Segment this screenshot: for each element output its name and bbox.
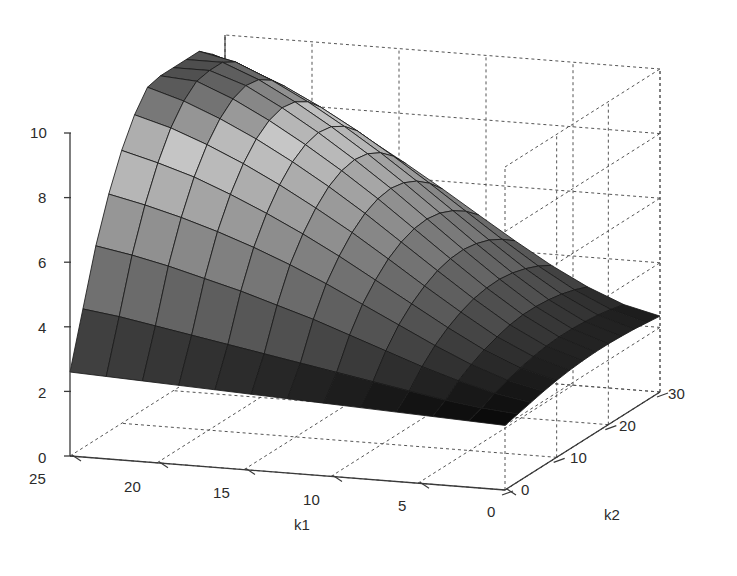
k1-axis-tick-15: 15 <box>213 484 230 501</box>
surface-plot-canvas <box>0 0 737 576</box>
k1-axis-tick-0: 0 <box>487 503 496 520</box>
z-axis-tick-6: 6 <box>38 254 47 271</box>
wall-grid-z <box>225 35 660 69</box>
surface-mesh <box>70 51 660 425</box>
k1-axis-tick-10: 10 <box>303 491 320 508</box>
z-axis-tick-8: 8 <box>38 189 47 206</box>
k1-axis-tick-25: 25 <box>29 470 46 487</box>
k2-axis-tick-0: 0 <box>521 481 530 498</box>
k2-axis-tick-30: 30 <box>668 385 685 402</box>
axis-label-k2: k2 <box>604 506 620 523</box>
k2-axis-line <box>505 392 660 490</box>
z-axis-tick-4: 4 <box>38 319 47 336</box>
k2-axis-tick-mark <box>502 491 513 495</box>
k1-axis-tick-20: 20 <box>124 478 141 495</box>
wall-grid-z2 <box>505 134 660 232</box>
k1-axis-tick-5: 5 <box>398 497 407 514</box>
z-axis-tick-10: 10 <box>30 124 47 141</box>
axis-label-k1: k1 <box>294 516 310 533</box>
surface-plot-figure: 108642025201510500102030k1k2 <box>0 0 737 576</box>
floor-grid-k2 <box>122 423 557 457</box>
k2-axis-tick-10: 10 <box>570 449 587 466</box>
z-axis-tick-0: 0 <box>38 449 47 466</box>
wall-grid-z2 <box>505 69 660 167</box>
z-axis-tick-2: 2 <box>38 384 47 401</box>
k2-axis-tick-20: 20 <box>619 417 636 434</box>
